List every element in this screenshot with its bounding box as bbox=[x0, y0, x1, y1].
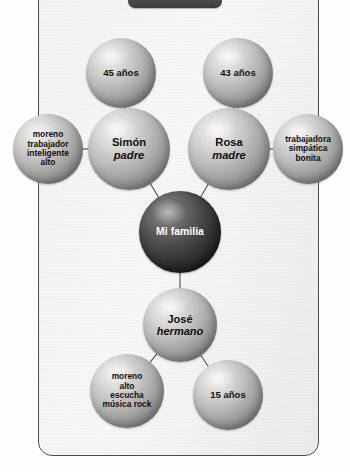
node-label: Mi familia bbox=[153, 226, 207, 238]
node-label-primary: morenoaltoescuchamúsica rock bbox=[103, 372, 152, 410]
node-label: 15 años bbox=[207, 390, 248, 401]
node-brother[interactable]: Joséhermano bbox=[143, 288, 217, 362]
node-father[interactable]: Simónpadre bbox=[88, 108, 170, 190]
node-label: morenoaltoescuchamúsica rock bbox=[100, 372, 155, 410]
node-traits-brother[interactable]: morenoaltoescuchamúsica rock bbox=[90, 354, 164, 428]
node-label: Joséhermano bbox=[154, 313, 206, 338]
node-label-primary: 15 años bbox=[210, 390, 245, 401]
node-label-primary: Rosa bbox=[212, 136, 246, 149]
node-label-secondary: madre bbox=[212, 149, 246, 162]
node-label-primary: 43 años bbox=[220, 68, 255, 79]
node-label-primary: Simón bbox=[112, 136, 146, 149]
node-age-father[interactable]: 45 años bbox=[86, 38, 156, 108]
node-age-mother[interactable]: 43 años bbox=[203, 38, 273, 108]
node-label-primary: morenotrabajadorinteligentealto bbox=[27, 130, 69, 168]
node-label: Rosamadre bbox=[209, 136, 249, 161]
node-label: Simónpadre bbox=[109, 136, 149, 161]
node-label-secondary: hermano bbox=[157, 325, 203, 337]
node-label-primary: trabajadorasimpáticabonita bbox=[285, 135, 331, 163]
node-label-primary: Mi familia bbox=[156, 226, 204, 238]
node-label: morenotrabajadorinteligentealto bbox=[24, 130, 72, 168]
top-tab-shape bbox=[128, 0, 222, 8]
node-label: 45 años bbox=[100, 68, 141, 79]
node-label-secondary: padre bbox=[112, 149, 146, 162]
node-label: trabajadorasimpáticabonita bbox=[282, 135, 334, 163]
node-label-primary: 45 años bbox=[103, 68, 138, 79]
node-label: 43 años bbox=[217, 68, 258, 79]
node-traits-mother[interactable]: trabajadorasimpáticabonita bbox=[273, 114, 343, 184]
node-label-primary: José bbox=[157, 313, 203, 325]
node-age-brother[interactable]: 15 años bbox=[193, 360, 263, 430]
page-canvas: 45 años43 añosmorenotrabajadorinteligent… bbox=[0, 0, 350, 472]
node-traits-father[interactable]: morenotrabajadorinteligentealto bbox=[13, 114, 83, 184]
node-mother[interactable]: Rosamadre bbox=[188, 108, 270, 190]
node-family[interactable]: Mi familia bbox=[139, 191, 221, 273]
